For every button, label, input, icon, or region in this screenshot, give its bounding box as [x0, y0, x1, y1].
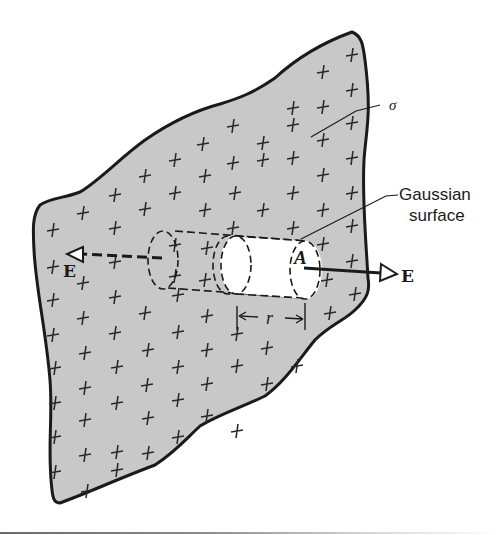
area-label: A: [293, 247, 307, 268]
sigma-label: σ: [389, 97, 397, 113]
radius-label: r: [266, 308, 274, 328]
field-label-right: E: [401, 266, 414, 286]
gaussian-surface-label-line2: surface: [409, 206, 465, 225]
arrowhead-right-icon: [380, 264, 397, 281]
field-label-left: E: [63, 261, 76, 281]
sheet-intersection-ring-2: [221, 236, 251, 294]
plus-charge-icon: [231, 424, 243, 438]
bottom-rule: [0, 532, 502, 534]
gaussian-surface-label-line1: Gaussian: [399, 185, 471, 204]
gauss-law-plane-diagram: r σ Gaussian surface A E E: [0, 0, 502, 535]
